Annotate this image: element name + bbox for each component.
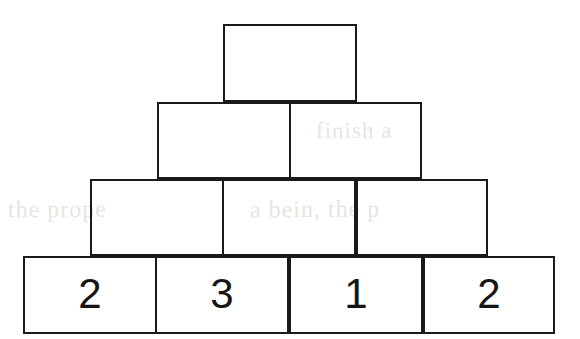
cell-r1-c1[interactable] — [223, 24, 357, 102]
cell-value: 2 — [78, 273, 101, 315]
cell-r3-c2[interactable] — [222, 179, 356, 256]
cell-value: 1 — [344, 273, 367, 315]
cell-r4-c1[interactable]: 2 — [23, 256, 157, 334]
cell-r3-c3[interactable] — [356, 179, 488, 256]
cell-r2-c1[interactable] — [157, 102, 291, 179]
cell-value: 2 — [477, 273, 500, 315]
cell-r2-c2[interactable] — [289, 102, 422, 179]
cell-value: 3 — [210, 273, 233, 315]
cell-r4-c2[interactable]: 3 — [155, 256, 289, 334]
number-pyramid: 2 3 1 2 — [0, 0, 580, 339]
cell-r3-c1[interactable] — [90, 179, 224, 256]
pyramid-diagram-page: finish a the prope a bein, the p 2 — [0, 0, 580, 339]
cell-r4-c3[interactable]: 1 — [289, 256, 423, 334]
cell-r4-c4[interactable]: 2 — [423, 256, 555, 334]
